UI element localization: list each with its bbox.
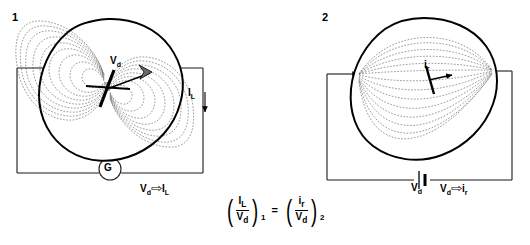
left-paren-close: ) [252,199,258,222]
left-fraction: IL Vd [235,196,250,224]
battery-symbol-label: V [411,182,418,193]
panel-2-dipole-label: ir [424,60,430,72]
dipole-subscript: d [117,61,121,68]
relation-from-symbol: V [140,183,147,194]
battery-subscript: d [418,188,422,195]
implies-arrow-icon: ⇨ [150,183,164,194]
panel-number-2: 2 [322,11,328,23]
panel-1-lead-current-label: IL [188,88,195,100]
equation-right-term: ( ir Vd ) 2 [284,196,324,224]
right-paren-open: ( [286,199,292,222]
reciprocity-equation: ( IL Vd ) 1 = ( ir Vd ) 2 [225,196,324,224]
lead-current-subscript: L [191,93,195,100]
reciprocity-figure: 1 2 Vd ir IL G Vd⇨IL Vd Vd⇨ir ( IL Vd ) … [0,0,530,245]
left-denominator-subscript: d [243,215,248,225]
left-paren-open: ( [227,199,233,222]
panel-2-battery-label: Vd [411,183,422,195]
panel-1-group [16,19,205,180]
right-term-index: 2 [319,213,324,224]
panel-2-relation-label: Vd⇨ir [440,183,467,196]
equals-sign: = [265,204,283,216]
implies-arrow-icon: ⇨ [450,183,464,194]
left-numerator-subscript: L [241,199,246,209]
panel-2-volume-conductor-outline [351,18,497,160]
left-numerator: IL [239,196,247,209]
right-paren-close: ) [311,199,317,222]
equation-left-term: ( IL Vd ) 1 [225,196,265,224]
right-numerator-subscript: r [301,199,304,209]
right-fraction: ir Vd [294,196,309,224]
relation-to-subscript: L [165,189,169,196]
reciprocal-current-subscript: r [427,65,430,72]
relation-from-symbol: V [440,183,447,194]
right-denominator-subscript: d [302,215,307,225]
panel-1-volume-conductor-outline [39,19,183,161]
left-denominator: Vd [237,212,249,225]
panel-2-group [327,18,512,189]
relation-to-subscript: r [465,189,468,196]
galvanometer-label: G [104,163,112,173]
right-denominator: Vd [296,212,308,225]
panel-number-1: 1 [12,11,18,23]
right-numerator: ir [298,196,304,209]
panel-1-dipole-label: Vd [110,56,121,68]
dipole-symbol: V [110,55,117,66]
panel-1-relation-label: Vd⇨IL [140,183,169,196]
